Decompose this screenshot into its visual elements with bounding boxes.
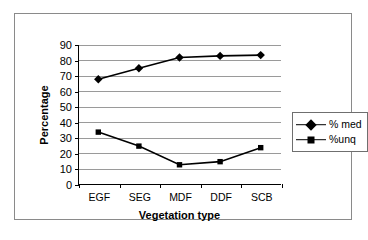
y-axis-tick-label: 0 — [66, 180, 72, 191]
legend-key — [296, 134, 326, 146]
square-marker-icon — [136, 143, 141, 148]
square-marker-icon — [177, 162, 182, 167]
x-axis-tick-label: EGF — [89, 192, 111, 203]
legend-label: % med — [329, 119, 362, 130]
series-line — [98, 132, 260, 165]
x-axis-title: Vegetation type — [78, 210, 281, 221]
square-marker-icon — [96, 129, 101, 134]
diamond-marker-icon — [94, 75, 102, 83]
square-marker-icon — [217, 159, 222, 164]
y-axis-tick-label: 70 — [60, 71, 72, 82]
diamond-marker-icon — [305, 119, 316, 130]
x-axis-tick — [282, 184, 283, 188]
legend-label: %unq — [329, 134, 356, 145]
y-axis-tick-label: 90 — [60, 40, 72, 51]
legend-item[interactable]: %unq — [296, 132, 362, 147]
y-axis-tick-label: 20 — [60, 148, 72, 159]
chart-border-frame: Percentage 0102030405060708090EGFSEGMDFD… — [14, 13, 352, 220]
y-axis-tick-label: 80 — [60, 55, 72, 66]
x-axis-tick-label: DDF — [210, 192, 232, 203]
legend-item[interactable]: % med — [296, 117, 362, 132]
y-axis-tick-label: 60 — [60, 86, 72, 97]
square-marker-icon — [308, 136, 315, 143]
y-axis-tick-label: 50 — [60, 102, 72, 113]
diamond-marker-icon — [135, 64, 143, 72]
x-axis-tick-label: SCB — [251, 192, 273, 203]
diamond-marker-icon — [216, 52, 224, 60]
x-axis-tick-label: SEG — [129, 192, 151, 203]
y-axis-tick-label: 40 — [60, 117, 72, 128]
x-axis-tick-label: MDF — [169, 192, 192, 203]
chart-figure: Percentage 0102030405060708090EGFSEGMDFD… — [0, 0, 368, 240]
y-axis-tick-label: 10 — [60, 164, 72, 175]
chart-legend: % med%unq — [292, 112, 368, 152]
y-axis-title: Percentage — [37, 45, 51, 185]
y-axis-tick-label: 30 — [60, 133, 72, 144]
series-layer — [78, 45, 281, 185]
diamond-marker-icon — [175, 53, 183, 61]
plot-area-wrapper: 0102030405060708090EGFSEGMDFDDFSCB — [78, 45, 281, 185]
legend-key — [296, 119, 326, 131]
diamond-marker-icon — [256, 51, 264, 59]
square-marker-icon — [258, 145, 263, 150]
